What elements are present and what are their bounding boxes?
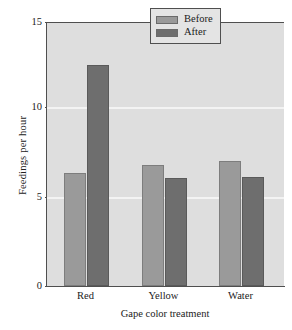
x-tick-label-yellow: Yellow — [124, 290, 203, 301]
x-tick-label-water: Water — [201, 290, 280, 301]
legend-item-before: Before — [156, 13, 213, 26]
x-tick-label-red: Red — [46, 290, 125, 301]
x-axis-title: Gape color treatment — [46, 308, 284, 319]
legend-item-after: After — [156, 26, 213, 39]
legend-swatch-before-icon — [156, 16, 178, 24]
y-tick-label-0: 0 — [16, 281, 42, 292]
bar-water-before — [219, 161, 241, 286]
y-tick-label-15: 15 — [16, 17, 42, 28]
legend-label-after: After — [184, 27, 206, 38]
plot-area — [46, 22, 284, 286]
gridline-10 — [47, 107, 284, 109]
bar-red-before — [64, 173, 86, 286]
chart-legend: Before After — [150, 8, 221, 44]
y-tick-label-10: 10 — [16, 102, 42, 113]
x-axis-tick-labels: Red Yellow Water — [46, 290, 284, 306]
bar-yellow-before — [142, 165, 164, 286]
bar-red-after — [87, 65, 109, 286]
bar-yellow-after — [165, 178, 187, 286]
y-tick-label-5: 5 — [16, 192, 42, 203]
legend-swatch-after-icon — [156, 29, 178, 37]
bar-water-after — [242, 177, 264, 286]
bar-chart-figure: Feedings per hour 15 10 5 0 Before After — [0, 0, 292, 330]
legend-label-before: Before — [184, 14, 213, 25]
y-axis-tick-labels: 15 10 5 0 — [14, 0, 42, 330]
